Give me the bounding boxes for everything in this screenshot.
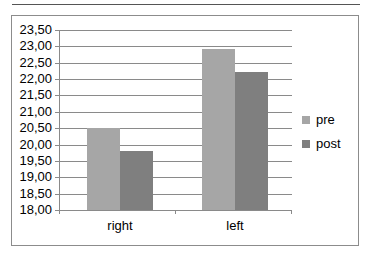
y-axis [59,30,60,211]
x-label-right: right [80,218,160,233]
header-separator [12,4,360,5]
legend-swatch-post [302,140,310,148]
y-tick-label: 19,50 [0,154,52,168]
bar-left-pre [202,49,235,210]
gridline [59,63,292,64]
legend-item-pre: pre [302,112,335,127]
y-tick-label: 20,50 [0,121,52,135]
x-label-left: left [195,218,275,233]
bar-left-post [235,72,268,210]
legend-swatch-pre [302,116,310,124]
legend-label-post: post [316,136,341,151]
legend-item-post: post [302,136,341,151]
y-tick-label: 20,00 [0,138,52,152]
y-tick-label: 18,50 [0,187,52,201]
x-tick-mark [59,210,60,214]
y-tick-label: 22,00 [0,72,52,86]
chart-frame [11,15,359,246]
bar-right-pre [87,128,120,210]
y-tick-label: 18,00 [0,203,52,217]
y-tick-label: 21,00 [0,105,52,119]
legend-label-pre: pre [316,112,335,127]
x-tick-mark [291,210,292,214]
y-tick-label: 19,00 [0,170,52,184]
x-tick-mark [175,210,176,214]
gridline [59,46,292,47]
bar-right-post [120,151,153,210]
gridline [59,30,292,31]
y-tick-label: 22,50 [0,56,52,70]
y-tick-label: 23,50 [0,23,52,37]
y-tick-label: 23,00 [0,39,52,53]
y-tick-label: 21,50 [0,88,52,102]
